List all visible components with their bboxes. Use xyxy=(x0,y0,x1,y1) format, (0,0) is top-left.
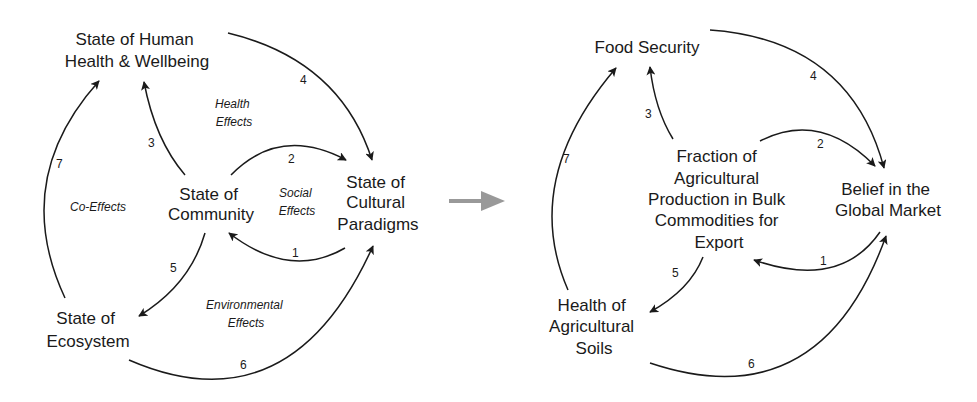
node-ecosystem: State of Ecosystem xyxy=(46,309,129,351)
edge-label-3: 3 xyxy=(645,107,652,121)
edge-label-7: 7 xyxy=(56,157,63,171)
edge-label-5: 5 xyxy=(672,266,679,280)
edge-label-6: 6 xyxy=(240,358,247,372)
transition-arrow-icon xyxy=(449,191,505,211)
edge-6 xyxy=(129,246,373,379)
node-cultural-paradigms: State of Cultural Paradigms xyxy=(337,173,418,234)
label-environmental-effects: Environmental Effects xyxy=(206,298,286,330)
edge-label-1: 1 xyxy=(292,246,299,260)
node-food-security: Food Security xyxy=(595,38,700,57)
node-soils: Health of Agricultural Soils xyxy=(549,296,639,358)
edge-1 xyxy=(229,233,345,261)
edge-label-4: 4 xyxy=(300,73,307,87)
edge-label-2: 2 xyxy=(288,152,295,166)
edge-label-2: 2 xyxy=(817,137,824,151)
edge-7 xyxy=(44,81,99,298)
edge-6 xyxy=(650,236,886,376)
label-social-effects: Social Effects xyxy=(279,186,316,218)
label-health-effects: Health Effects xyxy=(215,97,253,129)
label-co-effects: Co-Effects xyxy=(70,200,126,214)
left-diagram: State of Human Health & Wellbeing State … xyxy=(44,30,419,379)
edge-label-3: 3 xyxy=(148,136,155,150)
node-fraction-bulk-commodities: Fraction of Agricultural Production in B… xyxy=(648,147,790,252)
edge-7 xyxy=(552,68,616,290)
edge-label-4: 4 xyxy=(810,69,817,83)
edge-1 xyxy=(754,232,880,270)
edge-label-6: 6 xyxy=(748,357,755,371)
edge-3 xyxy=(650,67,673,139)
node-human-health: State of Human Health & Wellbeing xyxy=(65,30,209,71)
node-belief-global-market: Belief in the Global Market xyxy=(835,180,941,220)
edge-3 xyxy=(144,82,185,175)
edge-label-1: 1 xyxy=(820,254,827,268)
node-community: State of Community xyxy=(168,185,254,224)
edge-label-5: 5 xyxy=(170,261,177,275)
edge-label-7: 7 xyxy=(563,152,570,166)
right-diagram: Food Security Fraction of Agricultural P… xyxy=(549,30,941,376)
diagram-canvas: State of Human Health & Wellbeing State … xyxy=(0,0,977,402)
